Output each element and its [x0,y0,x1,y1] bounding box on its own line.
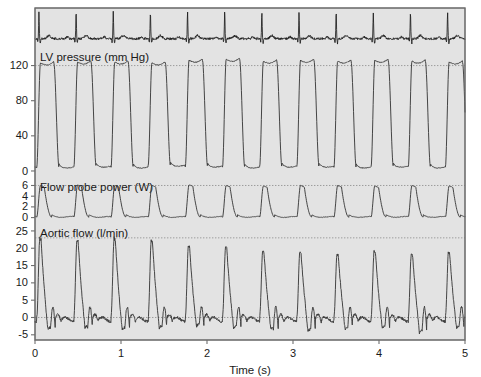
ytick-label-aortic-flow-3: 10 [16,276,28,288]
ytick-label-aortic-flow-5: 20 [16,242,28,254]
xtick-label-2: 2 [204,347,210,359]
ytick-label-aortic-flow-2: 5 [22,294,28,306]
xtick-label-3: 3 [290,347,296,359]
panel-label-aortic-flow: Aortic flow (l/min) [40,227,128,239]
panel-label-flow-probe-power: Flow probe power (W) [40,181,153,193]
ytick-label-aortic-flow-1: 0 [22,311,28,323]
xtick-label-5: 5 [462,347,468,359]
ytick-label-aortic-flow-0: -5 [18,328,28,340]
xtick-label-1: 1 [118,347,124,359]
ytick-label-flow-probe-power-1: 2 [22,200,28,212]
ytick-label-aortic-flow-6: 25 [16,225,28,237]
ytick-label-flow-probe-power-3: 6 [22,179,28,191]
ytick-label-lv-pressure-2: 80 [16,94,28,106]
ytick-label-lv-pressure-1: 40 [16,129,28,141]
xtick-label-4: 4 [376,347,382,359]
xaxis-title: Time (s) [229,364,271,376]
xtick-label-0: 0 [32,347,38,359]
ytick-label-aortic-flow-4: 15 [16,259,28,271]
ytick-label-lv-pressure-0: 0 [22,165,28,177]
ytick-label-flow-probe-power-0: 0 [22,211,28,223]
physiology-waveform-chart: 040801200246-50510152025012345Time (s)LV… [0,0,481,377]
figure-container: 040801200246-50510152025012345Time (s)LV… [0,0,481,377]
panel-label-lv-pressure: LV pressure (mm Hg) [40,51,149,63]
ytick-label-flow-probe-power-2: 4 [22,190,28,202]
ytick-label-lv-pressure-3: 120 [10,59,28,71]
